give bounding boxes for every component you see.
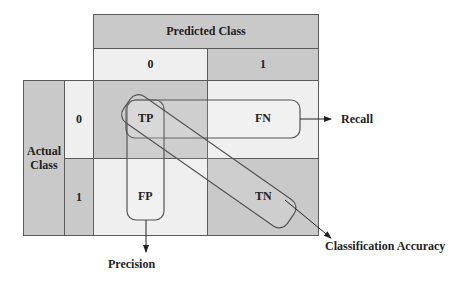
precision-label: Precision — [108, 257, 155, 272]
fn-label: FN — [255, 111, 271, 126]
accuracy-label: Classification Accuracy — [325, 239, 445, 254]
tn-label: TN — [255, 189, 272, 204]
accuracy-arrow — [285, 200, 331, 238]
tp-label: TP — [138, 111, 153, 126]
fp-label: FP — [138, 189, 153, 204]
recall-label: Recall — [341, 112, 373, 127]
